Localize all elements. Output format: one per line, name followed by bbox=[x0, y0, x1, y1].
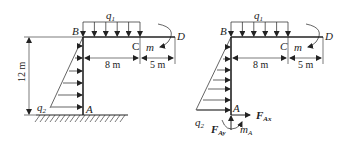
label-a: A bbox=[85, 103, 93, 115]
q1-label-fbd: q1 bbox=[254, 9, 263, 23]
dim-5m-label-fbd: 5 m bbox=[298, 59, 314, 70]
fixed-support bbox=[35, 115, 128, 122]
label-b-fbd: B bbox=[220, 25, 227, 37]
label-d-fbd: D bbox=[324, 30, 333, 42]
label-m: m bbox=[146, 41, 154, 53]
label-c-fbd: C bbox=[280, 40, 288, 52]
label-m-fbd: m bbox=[294, 41, 302, 53]
dim-8m-label-fbd: 8 m bbox=[253, 59, 269, 70]
distributed-load-q1-fbd bbox=[231, 22, 288, 36]
left-panel: q1 q2 12 m 8 m 5 m bbox=[16, 9, 185, 122]
label-d: D bbox=[176, 30, 185, 42]
label-fax: FAx bbox=[255, 109, 272, 123]
label-fay: FAy bbox=[210, 123, 226, 137]
label-ma: mA bbox=[240, 123, 253, 137]
label-a-fbd: A bbox=[232, 102, 240, 114]
q2-label: q2 bbox=[37, 101, 47, 115]
right-panel: q1 q2 8 m 5 m bbox=[195, 9, 333, 137]
frame-diagram: q1 q2 12 m 8 m 5 m bbox=[0, 0, 352, 146]
distributed-load-q2 bbox=[50, 37, 83, 108]
moment-arrow bbox=[158, 24, 171, 47]
label-b: B bbox=[72, 25, 79, 37]
dim-12m-label: 12 m bbox=[16, 62, 27, 83]
moment-arrow-fbd bbox=[306, 24, 319, 47]
q1-label: q1 bbox=[106, 9, 115, 23]
dim-5m-label: 5 m bbox=[150, 59, 166, 70]
distributed-load-q1 bbox=[83, 22, 140, 36]
distributed-load-q2-fbd bbox=[196, 37, 231, 110]
q2-label-fbd: q2 bbox=[195, 116, 205, 130]
label-c: C bbox=[132, 40, 139, 52]
dim-8m-label: 8 m bbox=[105, 59, 121, 70]
reaction-ma-arrow bbox=[222, 120, 242, 129]
